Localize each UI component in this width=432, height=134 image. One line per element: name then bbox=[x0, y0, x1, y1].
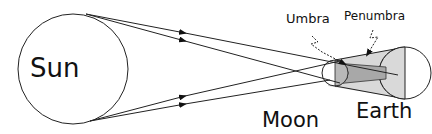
umbra-label: Umbra bbox=[286, 12, 330, 25]
sun-ray-upper-2-cont bbox=[185, 41, 340, 83]
penumbra-pointer bbox=[367, 30, 378, 55]
sun-label: Sun bbox=[30, 55, 79, 81]
earth-label: Earth bbox=[356, 101, 412, 122]
sun-ray-lower-2-cont bbox=[185, 80, 330, 104]
penumbra-label: Penumbra bbox=[344, 10, 405, 22]
moon-label: Moon bbox=[262, 110, 319, 131]
